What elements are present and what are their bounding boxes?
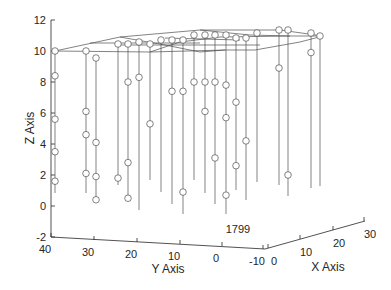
stem	[243, 35, 250, 200]
y-tick-label: 30	[82, 246, 94, 258]
stem	[169, 37, 176, 204]
stem-marker	[233, 99, 240, 106]
stem-marker	[147, 121, 154, 128]
stem-marker	[125, 79, 132, 86]
y-tick-label: -10	[249, 255, 265, 267]
stem	[52, 48, 59, 193]
stem-marker	[136, 39, 143, 46]
z-tick-label: 12	[34, 14, 46, 26]
stem-marker	[83, 48, 90, 55]
stem-marker	[212, 79, 219, 86]
stem-marker	[317, 33, 324, 40]
y-tick-label: 40	[39, 243, 51, 255]
stem-marker	[52, 148, 59, 155]
stem	[317, 33, 324, 186]
z-tick-label: 8	[40, 76, 46, 88]
z-tick-label: 6	[40, 107, 46, 119]
stem	[308, 30, 315, 188]
stem-marker	[93, 139, 100, 146]
x-tick-label: 30	[364, 228, 376, 240]
stem-marker	[93, 173, 100, 180]
stem-marker	[233, 162, 240, 169]
stem	[223, 32, 230, 214]
stem-marker	[308, 49, 315, 56]
y-tick-label: 0	[213, 252, 219, 264]
stem	[180, 37, 187, 214]
stem-marker	[191, 79, 198, 86]
stem	[285, 27, 292, 196]
stem-marker	[212, 155, 219, 162]
stem	[125, 41, 132, 202]
stem	[233, 35, 240, 190]
axes	[51, 20, 365, 249]
x-tick-label: 10	[300, 246, 312, 258]
stem-marker	[223, 114, 230, 121]
stem-marker	[83, 108, 90, 115]
stem-marker	[223, 32, 230, 39]
stem-marker	[276, 27, 283, 34]
stem-marker	[93, 55, 100, 62]
z-axis-label: Z Axis	[23, 112, 37, 145]
stem-marker	[254, 30, 261, 37]
stem	[93, 55, 100, 203]
stem-marker	[202, 32, 209, 39]
stem	[212, 32, 219, 204]
stem	[191, 32, 198, 180]
stem-marker	[233, 35, 240, 42]
x-tick-label: 0	[271, 255, 277, 267]
stem-marker	[180, 37, 187, 44]
z-tick-label: -2	[36, 231, 46, 243]
stem-marker	[125, 41, 132, 48]
top-frame	[55, 30, 323, 52]
stem-marker	[180, 189, 187, 196]
stem	[83, 48, 90, 193]
stem	[276, 27, 283, 185]
stem-marker	[93, 197, 100, 204]
stem-marker	[180, 88, 187, 95]
stem-marker	[223, 82, 230, 89]
stem-marker	[52, 178, 59, 185]
x-axis-label: X Axis	[311, 260, 344, 274]
stems	[52, 27, 324, 214]
stem	[147, 41, 154, 180]
z-tick-label: 0	[40, 200, 46, 212]
stem-marker	[125, 159, 132, 166]
stem-marker	[243, 35, 250, 42]
stem-marker	[115, 41, 122, 48]
stem-marker	[147, 41, 154, 48]
stem	[158, 37, 165, 192]
stem-marker	[52, 116, 59, 123]
stem-marker	[243, 138, 250, 145]
stem-marker	[276, 65, 283, 72]
y-tick-label: 10	[168, 250, 180, 262]
stem-marker	[223, 192, 230, 199]
stem-marker	[158, 37, 165, 44]
y-tick-label: 20	[125, 248, 137, 260]
stem-marker	[115, 175, 122, 182]
stem-marker	[52, 48, 59, 55]
stem3-chart: 121086420-2 403020100-10 0102030 Z Axis …	[0, 0, 391, 290]
stem-marker	[202, 79, 209, 86]
stem-marker	[202, 108, 209, 115]
stem-marker	[285, 172, 292, 179]
stem-marker	[285, 27, 292, 34]
z-tick-label: 4	[40, 138, 46, 150]
stem	[202, 32, 209, 193]
stem-marker	[83, 131, 90, 138]
y-axis-label: Y Axis	[151, 262, 184, 276]
z-tick-label: 2	[40, 169, 46, 181]
stem	[254, 30, 261, 182]
stem-marker	[136, 74, 143, 81]
stem-marker	[212, 32, 219, 39]
stem-marker	[308, 30, 315, 37]
stem-marker	[169, 88, 176, 95]
stem-marker	[169, 37, 176, 44]
z-tick-label: 10	[34, 45, 46, 57]
stem-marker	[52, 73, 59, 80]
annotation-1799: 1799	[226, 223, 250, 235]
x-axis-line	[265, 221, 365, 249]
stem-marker	[83, 170, 90, 177]
x-tick-label: 20	[333, 237, 345, 249]
stem-marker	[125, 195, 132, 202]
stem	[136, 39, 143, 210]
